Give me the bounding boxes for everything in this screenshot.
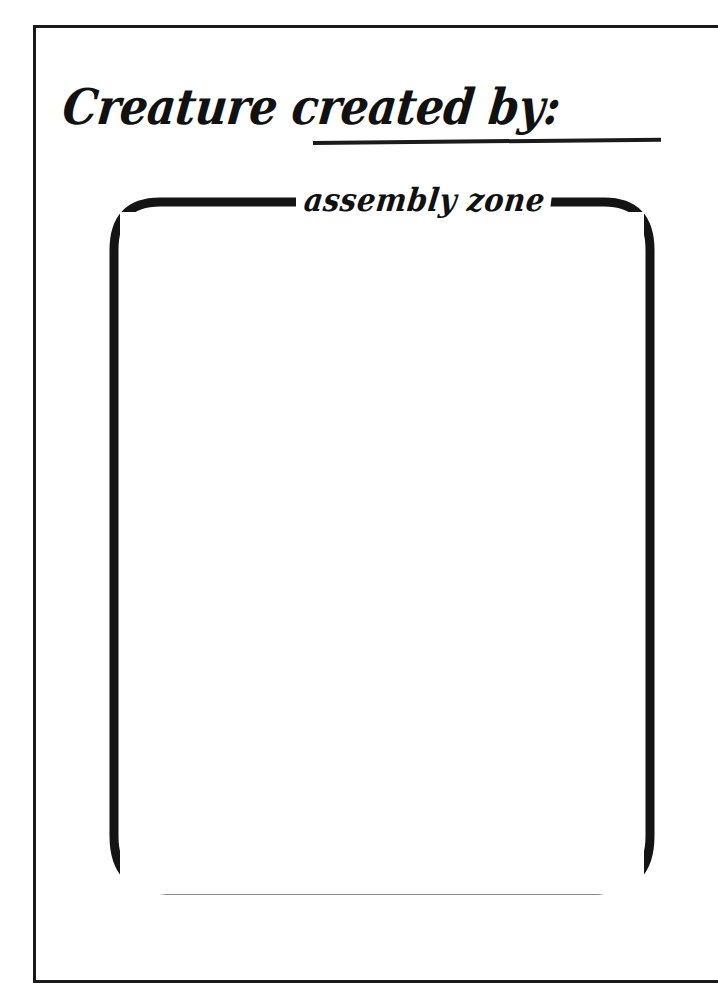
page-frame-top-rule <box>33 25 718 28</box>
worksheet-page: Creature created by: assembly zone <box>0 0 718 998</box>
page-frame-bottom-rule <box>33 980 718 983</box>
page-frame-left-rule <box>33 25 36 983</box>
creator-name-blank-line[interactable] <box>313 138 661 145</box>
assembly-zone-title: assembly zone <box>296 182 553 219</box>
creature-created-by-label: Creature created by: <box>60 78 563 135</box>
assembly-zone-drawing-area[interactable] <box>120 212 644 894</box>
